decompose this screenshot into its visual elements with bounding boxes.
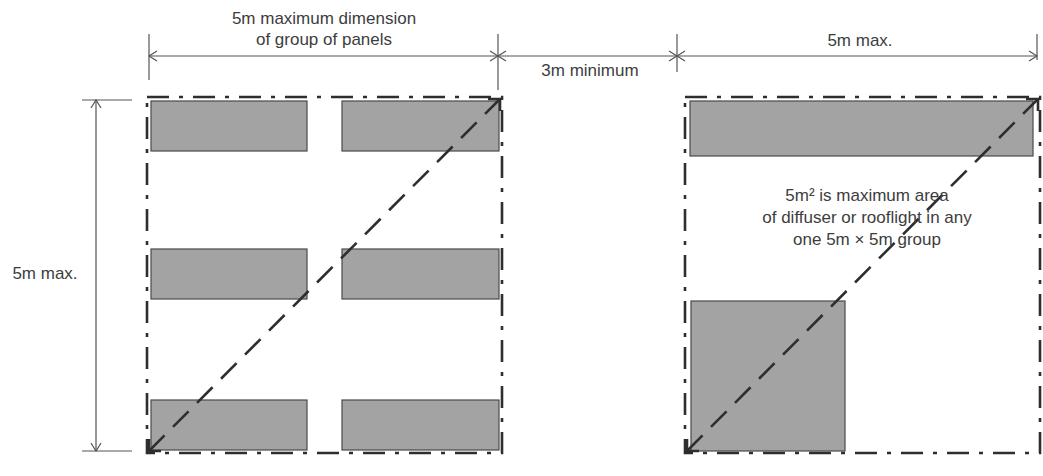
group-width-label-line2: of group of panels (214, 29, 434, 50)
panel (342, 249, 499, 299)
area-note: 5m² is maximum area of diffuser or roofl… (722, 185, 1012, 251)
area-note-line3: one 5m × 5m group (722, 229, 1012, 251)
panel-strip (690, 101, 1033, 156)
panel (151, 249, 307, 299)
height-label: 5m max. (2, 263, 88, 284)
panel (342, 101, 499, 151)
group-width-label: 5m maximum dimension of group of panels (214, 8, 434, 50)
panel-square (691, 301, 845, 451)
panel (342, 400, 499, 450)
area-note-line2: of diffuser or rooflight in any (722, 207, 1012, 229)
panel (151, 101, 307, 151)
group-width-label-line1: 5m maximum dimension (214, 8, 434, 29)
area-note-line1: 5m² is maximum area (722, 185, 1012, 207)
gap-label: 3m minimum (530, 60, 650, 81)
right-width-label: 5m max. (800, 30, 920, 51)
